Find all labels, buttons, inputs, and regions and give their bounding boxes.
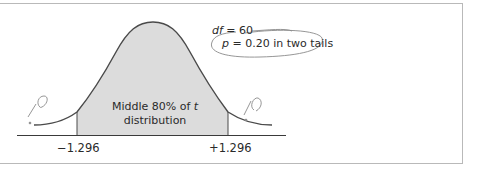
- p-variable: p: [222, 37, 229, 50]
- middle-region-label: Middle 80% of t distribution: [100, 100, 210, 128]
- df-variable: df: [212, 24, 223, 37]
- handwritten-right-tail-label: [244, 98, 261, 121]
- p-annotation: p = 0.20 in two tails: [222, 37, 333, 50]
- handwritten-left-tail-label: [28, 96, 47, 124]
- df-annotation: df = 60: [212, 24, 253, 37]
- x-tick-left: −1.296: [57, 141, 100, 155]
- p-value: = 0.20 in two tails: [229, 37, 333, 50]
- df-value: = 60: [223, 24, 253, 37]
- middle-region-label-line2: distribution: [100, 114, 210, 128]
- x-tick-right: +1.296: [209, 141, 252, 155]
- middle-region-label-line1: Middle 80% of t: [100, 100, 210, 114]
